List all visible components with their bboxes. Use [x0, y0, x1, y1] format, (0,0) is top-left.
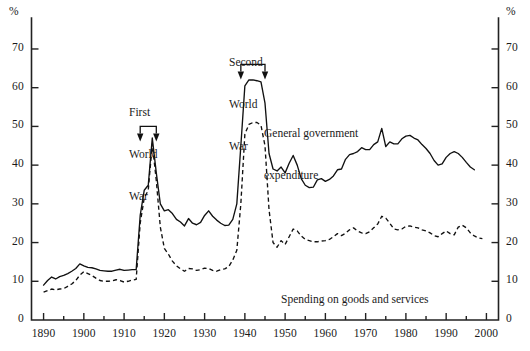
x-tick-label-1940: 1940	[225, 327, 265, 340]
x-tick-label-1970: 1970	[346, 327, 386, 340]
series-label-spending-on-goods-and-services-line-1: Spending on goods and services	[281, 292, 429, 306]
y-tick-label-right-10: 10	[506, 273, 528, 286]
annotation-first-world-war: First World War	[129, 77, 157, 231]
y-tick-label-left-40: 40	[2, 157, 24, 170]
annotation-second-world-war: Second World War	[229, 27, 263, 181]
x-tick-label-1910: 1910	[104, 327, 144, 340]
x-tick-label-1920: 1920	[144, 327, 184, 340]
series-group	[44, 80, 483, 292]
y-tick-label-left-10: 10	[2, 273, 24, 286]
x-tick-label-1930: 1930	[185, 327, 225, 340]
y-tick-label-right-50: 50	[506, 118, 528, 131]
x-tick-label-1980: 1980	[386, 327, 426, 340]
x-tick-label-1890: 1890	[24, 327, 64, 340]
series-label-general-government-expenditure-line-2: expenditure	[264, 168, 358, 182]
annotation-first-world-war-line-3: War	[129, 189, 157, 203]
annotation-first-world-war-line-2: World	[129, 147, 157, 161]
y-tick-label-right-60: 60	[506, 80, 528, 93]
y-tick-label-right-0: 0	[506, 312, 528, 325]
series-label-spending-on-goods-and-services: Spending on goods and services	[281, 264, 429, 334]
annotation-second-world-war-line-3: War	[229, 139, 263, 153]
x-tick-label-1950: 1950	[265, 327, 305, 340]
x-tick-label-1960: 1960	[305, 327, 345, 340]
annotation-second-world-war-line-1: Second	[229, 55, 263, 69]
x-tick-label-1900: 1900	[64, 327, 104, 340]
y-tick-label-left-30: 30	[2, 196, 24, 209]
y-tick-label-right-30: 30	[506, 196, 528, 209]
y-tick-label-left-50: 50	[2, 118, 24, 131]
series-label-general-government-expenditure-line-1: General government	[264, 126, 358, 140]
y-axis-unit-right: %	[506, 5, 516, 18]
annotation-first-world-war-line-1: First	[129, 105, 157, 119]
y-tick-label-left-0: 0	[2, 312, 24, 325]
y-axis-unit-left: %	[9, 5, 19, 18]
y-tick-label-left-60: 60	[2, 80, 24, 93]
y-tick-label-right-70: 70	[506, 41, 528, 54]
x-tick-label-1990: 1990	[426, 327, 466, 340]
y-tick-label-right-40: 40	[506, 157, 528, 170]
y-tick-label-left-20: 20	[2, 235, 24, 248]
annotation-second-world-war-line-2: World	[229, 97, 263, 111]
series-label-general-government-expenditure: General government expenditure	[264, 98, 358, 210]
chart-figure: % % First World War Second World War Gen…	[0, 0, 530, 351]
y-tick-label-left-70: 70	[2, 41, 24, 54]
x-tick-label-2000: 2000	[466, 327, 506, 340]
y-tick-label-right-20: 20	[506, 235, 528, 248]
